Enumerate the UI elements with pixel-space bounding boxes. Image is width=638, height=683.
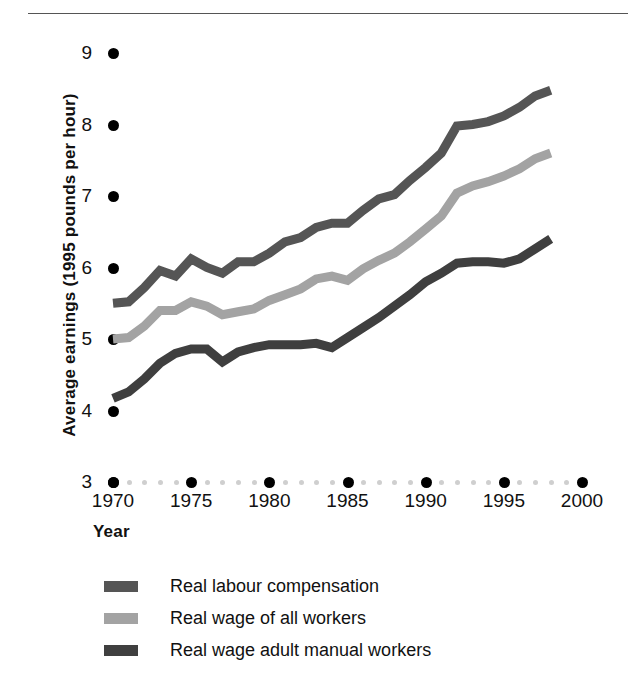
chart-line	[113, 90, 551, 303]
legend-label: Real wage adult manual workers	[170, 641, 431, 659]
legend-swatch	[104, 613, 138, 624]
chart-plot-area: Average earnings (1995 pounds per hour) …	[0, 0, 638, 555]
legend-swatch	[104, 645, 138, 656]
chart-line	[113, 153, 551, 339]
chart-legend: Real labour compensationReal wage of all…	[104, 570, 564, 666]
legend-label: Real labour compensation	[170, 577, 379, 595]
x-axis-title: Year	[93, 522, 130, 542]
legend-item: Real wage of all workers	[104, 602, 564, 634]
chart-line	[113, 239, 551, 398]
legend-item: Real labour compensation	[104, 570, 564, 602]
legend-item: Real wage adult manual workers	[104, 634, 564, 666]
chart-lines	[0, 0, 638, 555]
legend-swatch	[104, 581, 138, 592]
legend-label: Real wage of all workers	[170, 609, 366, 627]
